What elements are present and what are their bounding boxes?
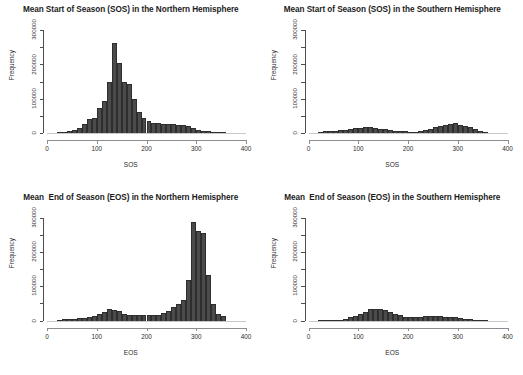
y-tick (40, 218, 44, 219)
y-tick (40, 235, 44, 236)
y-tick (40, 82, 44, 83)
x-axis-title: SOS (0, 161, 262, 168)
x-tick (508, 140, 509, 144)
x-axis-title: EOS (262, 349, 523, 356)
panel-title: Mean Start of Season (SOS) in the Northe… (0, 5, 262, 14)
plot-area (44, 218, 248, 321)
y-tick-label: 300000 (31, 19, 37, 40)
x-tick-label: 200 (141, 145, 152, 152)
y-tick (301, 218, 305, 219)
y-tick-label: 0 (292, 131, 298, 134)
y-tick (40, 30, 44, 31)
x-tick (147, 140, 148, 144)
x-tick-label: 0 (45, 333, 49, 340)
x-tick-label: 300 (452, 333, 463, 340)
y-tick-label: 0 (31, 319, 37, 322)
y-tick (40, 64, 44, 65)
y-tick (40, 252, 44, 253)
y-tick-label: 200000 (292, 54, 298, 75)
x-tick (458, 140, 459, 144)
y-tick (40, 269, 44, 270)
y-tick-label: 200000 (31, 54, 37, 75)
y-axis-title: Frequency (9, 50, 15, 80)
x-tick-label: 200 (403, 145, 414, 152)
y-tick (40, 99, 44, 100)
panel-bottom-left: Mean End of Season (EOS) in the Northern… (0, 188, 262, 375)
panel-title: Mean Start of Season (SOS) in the Southe… (262, 5, 523, 14)
plot-area (306, 218, 510, 321)
x-tick-label: 100 (353, 333, 364, 340)
y-tick (301, 116, 305, 117)
x-tick-label: 0 (307, 145, 311, 152)
panel-title: Mean End of Season (EOS) in the Southern… (262, 193, 523, 202)
histogram-baseline (309, 321, 508, 322)
x-tick-label: 400 (241, 333, 252, 340)
y-tick (40, 133, 44, 134)
x-tick (147, 328, 148, 332)
y-tick (301, 82, 305, 83)
panel-top-right: Mean Start of Season (SOS) in the Southe… (262, 0, 523, 188)
y-tick (301, 64, 305, 65)
histogram-figure-grid: Mean Start of Season (SOS) in the Northe… (0, 0, 523, 375)
x-tick (408, 328, 409, 332)
histogram-baseline (47, 133, 246, 134)
x-tick (358, 328, 359, 332)
y-tick-label: 0 (292, 319, 298, 322)
y-tick (301, 303, 305, 304)
x-tick-label: 0 (45, 145, 49, 152)
y-tick (301, 47, 305, 48)
y-tick-label: 300000 (292, 19, 298, 40)
x-axis-title: EOS (0, 349, 262, 356)
x-tick (97, 328, 98, 332)
y-tick (301, 286, 305, 287)
x-tick (47, 140, 48, 144)
x-tick (47, 328, 48, 332)
y-tick (40, 47, 44, 48)
y-tick (301, 269, 305, 270)
histogram-baseline (47, 321, 246, 322)
y-tick-label: 0 (31, 131, 37, 134)
x-tick-label: 400 (502, 333, 513, 340)
y-tick (301, 99, 305, 100)
y-tick-label: 100000 (292, 275, 298, 296)
y-tick-label: 100000 (292, 88, 298, 109)
x-tick-label: 300 (452, 145, 463, 152)
y-axis-title: Frequency (271, 238, 277, 268)
y-tick (301, 252, 305, 253)
x-tick (508, 328, 509, 332)
y-tick-label: 100000 (31, 275, 37, 296)
panel-top-left: Mean Start of Season (SOS) in the Northe… (0, 0, 262, 188)
y-tick (301, 30, 305, 31)
x-tick-label: 400 (502, 145, 513, 152)
x-tick (458, 328, 459, 332)
y-tick-label: 200000 (31, 241, 37, 262)
y-axis-title: Frequency (271, 50, 277, 80)
x-tick-label: 0 (307, 333, 311, 340)
y-tick (40, 116, 44, 117)
y-tick (301, 133, 305, 134)
x-tick-label: 200 (403, 333, 414, 340)
x-tick (196, 328, 197, 332)
x-tick-label: 200 (141, 333, 152, 340)
y-tick (40, 286, 44, 287)
y-tick (40, 321, 44, 322)
x-tick-label: 300 (191, 145, 202, 152)
x-tick (97, 140, 98, 144)
panel-title: Mean End of Season (EOS) in the Northern… (0, 193, 262, 202)
y-tick (40, 303, 44, 304)
x-tick-label: 100 (353, 145, 364, 152)
x-tick (358, 140, 359, 144)
panel-bottom-right: Mean End of Season (EOS) in the Southern… (262, 188, 523, 375)
y-tick-label: 100000 (31, 88, 37, 109)
y-axis-title: Frequency (9, 238, 15, 268)
y-tick-label: 200000 (292, 241, 298, 262)
histogram-baseline (309, 133, 508, 134)
y-tick-label: 300000 (292, 207, 298, 228)
x-tick-label: 100 (91, 333, 102, 340)
x-tick (309, 140, 310, 144)
x-tick (246, 328, 247, 332)
x-tick-label: 300 (191, 333, 202, 340)
y-tick (301, 321, 305, 322)
x-tick (408, 140, 409, 144)
plot-area (44, 30, 248, 133)
